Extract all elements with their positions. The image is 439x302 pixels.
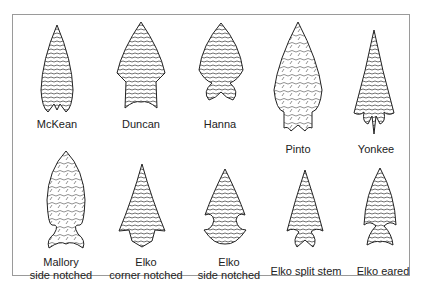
label-mallory-line2: side notched — [30, 269, 92, 282]
hanna-point-icon — [199, 23, 243, 100]
label-hanna: Hanna — [204, 118, 236, 131]
label-elko-eared: Elko eared — [357, 265, 410, 278]
label-mallory-line1: Mallory — [43, 256, 78, 269]
label-elko-side-line2: side notched — [198, 269, 260, 282]
label-mckean: McKean — [37, 118, 77, 131]
duncan-point-icon — [117, 22, 165, 108]
label-elko-corner-line1: Elko — [135, 256, 156, 269]
label-elko-corner-line2: corner notched — [109, 269, 182, 282]
elko-split-stem-point-icon — [287, 170, 323, 247]
label-pinto: Pinto — [285, 143, 310, 156]
label-duncan: Duncan — [122, 118, 160, 131]
elko-corner-notched-point-icon — [119, 164, 165, 247]
mckean-point-icon — [41, 25, 73, 112]
pinto-point-icon — [274, 22, 322, 131]
mallory-point-icon — [47, 151, 85, 248]
label-yonkee: Yonkee — [358, 143, 394, 156]
elko-side-notched-point-icon — [204, 169, 246, 244]
yonkee-point-icon — [354, 30, 394, 134]
elko-eared-point-icon — [364, 168, 396, 245]
label-elko-side-line1: Elko — [218, 256, 239, 269]
label-elko-split-stem: Elko split stem — [271, 265, 342, 278]
